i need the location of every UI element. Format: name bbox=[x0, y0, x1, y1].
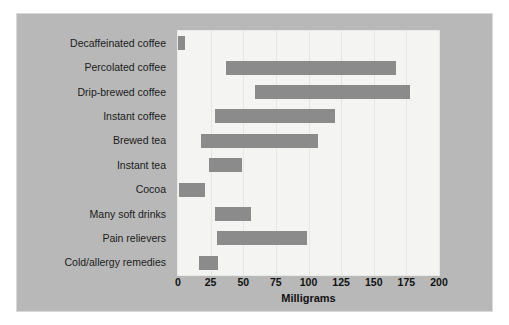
category-label: Brewed tea bbox=[16, 134, 166, 146]
caffeine-range-chart: Decaffeinated coffeePercolated coffeeDri… bbox=[17, 14, 492, 311]
category-label: Many soft drinks bbox=[16, 208, 166, 220]
category-label: Percolated coffee bbox=[16, 61, 166, 73]
range-bar bbox=[201, 134, 317, 148]
bar-row bbox=[178, 104, 439, 128]
range-bar bbox=[215, 207, 252, 221]
category-label: Cold/allergy remedies bbox=[16, 256, 166, 268]
bar-row bbox=[178, 129, 439, 153]
x-tick-label: 125 bbox=[332, 276, 350, 288]
range-bar bbox=[209, 158, 242, 172]
range-bar bbox=[226, 61, 396, 75]
bar-row bbox=[178, 31, 439, 55]
bar-row bbox=[178, 80, 439, 104]
plot-area bbox=[178, 31, 439, 275]
category-label: Instant coffee bbox=[16, 110, 166, 122]
x-tick-label: 100 bbox=[300, 276, 318, 288]
category-label: Cocoa bbox=[16, 183, 166, 195]
bar-row bbox=[178, 226, 439, 250]
category-label: Pain relievers bbox=[16, 232, 166, 244]
x-axis-title: Milligrams bbox=[178, 292, 439, 304]
bar-row bbox=[178, 55, 439, 79]
range-bar bbox=[179, 183, 205, 197]
x-tick-label: 200 bbox=[430, 276, 448, 288]
category-axis: Decaffeinated coffeePercolated coffeeDri… bbox=[17, 31, 172, 275]
category-label: Instant tea bbox=[16, 159, 166, 171]
bar-row bbox=[178, 153, 439, 177]
x-tick-label: 50 bbox=[237, 276, 249, 288]
x-tick-label: 150 bbox=[365, 276, 383, 288]
x-tick-label: 0 bbox=[175, 276, 181, 288]
x-tick-label: 75 bbox=[270, 276, 282, 288]
range-bar bbox=[178, 36, 185, 50]
range-bar bbox=[199, 256, 219, 270]
chart-figure-frame: Decaffeinated coffeePercolated coffeeDri… bbox=[16, 13, 493, 312]
x-tick-label: 25 bbox=[205, 276, 217, 288]
x-tick-label: 175 bbox=[398, 276, 416, 288]
bar-row bbox=[178, 202, 439, 226]
bar-row bbox=[178, 251, 439, 275]
range-bar bbox=[255, 85, 410, 99]
category-label: Decaffeinated coffee bbox=[16, 37, 166, 49]
category-label: Drip-brewed coffee bbox=[16, 86, 166, 98]
range-bar bbox=[217, 231, 307, 245]
bar-row bbox=[178, 177, 439, 201]
gridline bbox=[439, 31, 440, 275]
range-bar bbox=[215, 109, 335, 123]
